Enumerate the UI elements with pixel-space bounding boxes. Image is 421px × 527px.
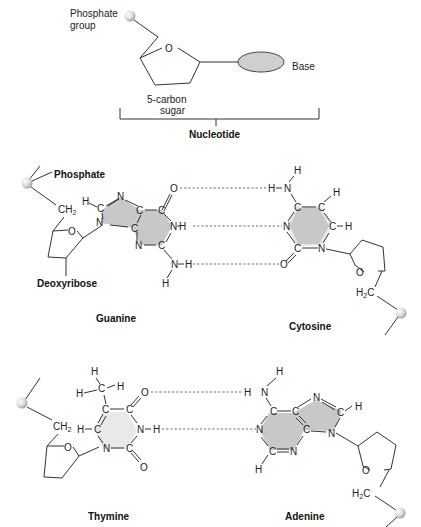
atom-n: N [290, 446, 297, 457]
ring-oxygen: O [64, 442, 72, 453]
bond [89, 203, 97, 207]
atom-h: H [185, 259, 192, 270]
atom-n: N [171, 259, 178, 270]
atom-o: O [140, 462, 148, 473]
atom-n: N [117, 191, 124, 202]
nucleotide-bracket [120, 108, 319, 126]
atom-n: N [135, 240, 142, 251]
bond [380, 470, 389, 487]
guanine-cytosine-pair: Phosphate CH2 O Deoxyribose N C H N C C … [22, 165, 407, 335]
atom-c: C [98, 383, 105, 394]
atom-c: C [337, 407, 344, 418]
atom-n: N [328, 428, 335, 439]
phosphate-ball-icon [22, 178, 33, 189]
bond [167, 270, 172, 278]
atom-n: N [103, 443, 110, 454]
deoxyribose-ring [48, 217, 83, 258]
nucleotide-label: Nucleotide [189, 129, 241, 140]
atom-c: C [294, 243, 301, 254]
atom-c: C [126, 404, 133, 415]
cytosine-label: Cytosine [289, 321, 332, 332]
atom-n: N [261, 387, 268, 398]
bond [267, 378, 276, 386]
atom-c: C [294, 202, 301, 213]
h2c-group: H2C [356, 287, 374, 299]
atom-c: C [94, 424, 101, 435]
atom-n: N [318, 243, 325, 254]
atom-h: H [294, 165, 301, 176]
sugar-label-line2: sugar [160, 105, 186, 116]
atom-o: O [141, 387, 149, 398]
atom-c: C [318, 202, 325, 213]
atom-h: H [153, 424, 160, 435]
deoxyribose-label: Deoxyribose [37, 278, 97, 289]
atom-h: H [355, 401, 362, 412]
atom-h: H [162, 278, 169, 289]
atom-h: H [244, 387, 251, 398]
backbone-line [385, 317, 398, 335]
atom-n: N [284, 183, 291, 194]
adenine-label: Adenine [285, 511, 325, 522]
atom-c: C [126, 443, 133, 454]
backbone-line [375, 496, 396, 510]
atom-c: C [102, 404, 109, 415]
sugar-label-line1: 5-carbon [147, 94, 186, 105]
ring-oxygen: O [68, 226, 76, 237]
atom-n: N [283, 221, 290, 232]
atom-c: C [303, 424, 310, 435]
phosphate-group-label-line2: group [70, 20, 96, 31]
phosphate-group-label-line1: Phosphate [70, 8, 118, 19]
ring-oxygen: O [165, 43, 173, 54]
atom-n: N [137, 424, 144, 435]
thymine-adenine-pair: CH2 O H H H C C C O C H N H N C O H [17, 366, 406, 527]
phosphate-ball-icon [17, 398, 28, 409]
bond [266, 398, 271, 406]
atom-c: C [329, 221, 336, 232]
bond [262, 455, 268, 464]
phosphate-pointer [32, 172, 52, 181]
atom-c: C [270, 406, 277, 417]
phosphate-link [134, 20, 158, 58]
backbone-line [386, 517, 397, 527]
atom-n: N [313, 392, 320, 403]
bond [345, 406, 352, 411]
atom-c: C [292, 406, 299, 417]
atom-h: H [276, 366, 283, 377]
atom-n: N [96, 217, 103, 228]
ch2-group: CH2 [58, 204, 76, 216]
nucleotide-schematic: Phosphate group O Base 5-carbon sugar Nu… [70, 8, 319, 140]
atom-h: H [77, 424, 84, 435]
atom-h: H [333, 187, 340, 198]
backbone-line [25, 378, 40, 400]
phosphate-label: Phosphate [54, 169, 106, 180]
backbone-line [31, 187, 56, 205]
bond [164, 250, 172, 259]
h2c-group: H2C [352, 488, 370, 500]
bond [375, 271, 382, 287]
phosphate-ball-icon [395, 508, 406, 519]
atom-h: H [76, 388, 83, 399]
thymine-label: Thymine [88, 511, 130, 522]
atom-h: H [255, 464, 262, 475]
atom-o: O [170, 183, 178, 194]
atom-h: H [91, 366, 98, 377]
glycosidic-bond [79, 447, 99, 456]
atom-c: C [131, 223, 138, 234]
atom-c: C [97, 203, 104, 214]
dna-diagram: Phosphate group O Base 5-carbon sugar Nu… [0, 0, 421, 527]
ch2-group: CH2 [53, 421, 71, 433]
atom-c: C [158, 240, 165, 251]
atom-o: O [280, 259, 288, 270]
atom-n: N [256, 424, 263, 435]
deoxyribose-ring [44, 434, 79, 478]
bond [291, 194, 296, 202]
atom-h: H [82, 196, 89, 207]
ring-oxygen: O [356, 267, 364, 278]
atom-n: N [170, 221, 177, 232]
phosphate-ball-icon [125, 11, 136, 22]
atom-h: H [345, 221, 352, 232]
atom-c: C [269, 446, 276, 457]
ring-oxygen: O [362, 465, 370, 476]
phosphate-ball-icon [396, 308, 407, 319]
atom-h: H [117, 381, 124, 392]
